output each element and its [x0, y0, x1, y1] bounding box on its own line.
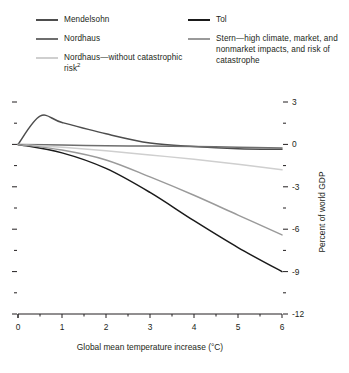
legend-label-nordhaus: Nordhaus — [64, 33, 100, 44]
y-tick-label: 3 — [292, 97, 297, 107]
chart-svg: 012345630-3-6-9-12 — [0, 92, 349, 373]
x-tick-label: 3 — [148, 322, 153, 332]
y-axis-label: Percent of world GDP — [303, 32, 313, 152]
legend-item-nordhaus: Nordhaus — [36, 33, 186, 44]
legend-item-nordhaus-no-catastrophic-risk: Nordhaus—without catastrophic risk2 — [36, 52, 186, 74]
legend-column-right: Tol Stern—high climate, market, and nonm… — [188, 14, 346, 74]
y-tick-label: -6 — [292, 224, 300, 234]
x-tick-label: 2 — [104, 322, 109, 332]
legend-item-tol: Tol — [188, 14, 346, 25]
data-series-group — [18, 115, 282, 271]
x-tick-label: 5 — [236, 322, 241, 332]
legend-line-swatch-mendelsohn — [36, 19, 58, 21]
legend-label-stern: Stern—high climate, market, and nonmarke… — [216, 33, 346, 66]
legend-label-tol: Tol — [216, 14, 227, 25]
legend-label-nordhaus-no-catastrophic-risk: Nordhaus—without catastrophic risk2 — [64, 52, 186, 74]
legend-line-swatch-nordhaus-no-catastrophic-risk — [36, 57, 58, 59]
x-tick-label: 6 — [280, 322, 285, 332]
x-tick-label: 0 — [16, 322, 21, 332]
tick-labels: 012345630-3-6-9-12 — [16, 97, 305, 332]
series-line-mendelsohn — [18, 115, 282, 149]
y-tick-label: -9 — [292, 267, 300, 277]
legend-line-swatch-stern — [188, 38, 210, 40]
x-axis-label: Global mean temperature increase (°C) — [0, 342, 300, 352]
x-tick-label: 4 — [192, 322, 197, 332]
legend-column-left: Mendelsohn Nordhaus Nordhaus—without cat… — [36, 14, 186, 82]
series-line-stern-high-climate-market-and-nonm — [18, 144, 282, 234]
y-axis-label-text: Percent of world GDP — [317, 152, 327, 272]
chart-plot-area: 012345630-3-6-9-12 Global mean temperatu… — [0, 92, 349, 373]
legend-line-swatch-nordhaus — [36, 38, 58, 40]
chart-figure: Mendelsohn Nordhaus Nordhaus—without cat… — [0, 0, 349, 373]
legend-line-swatch-tol — [188, 19, 210, 21]
series-line-tol — [18, 144, 282, 271]
y-tick-label: 0 — [292, 139, 297, 149]
legend-label-text: Nordhaus—without catastrophic risk — [64, 53, 182, 73]
y-tick-label: -3 — [292, 182, 300, 192]
tick-marks — [12, 102, 288, 318]
legend-item-stern: Stern—high climate, market, and nonmarke… — [188, 33, 346, 66]
y-tick-label: -12 — [292, 309, 304, 319]
legend-item-mendelsohn: Mendelsohn — [36, 14, 186, 25]
chart-legend: Mendelsohn Nordhaus Nordhaus—without cat… — [0, 0, 349, 92]
legend-footnote-marker: 2 — [77, 62, 80, 68]
x-tick-label: 1 — [60, 322, 65, 332]
legend-label-mendelsohn: Mendelsohn — [64, 14, 109, 25]
